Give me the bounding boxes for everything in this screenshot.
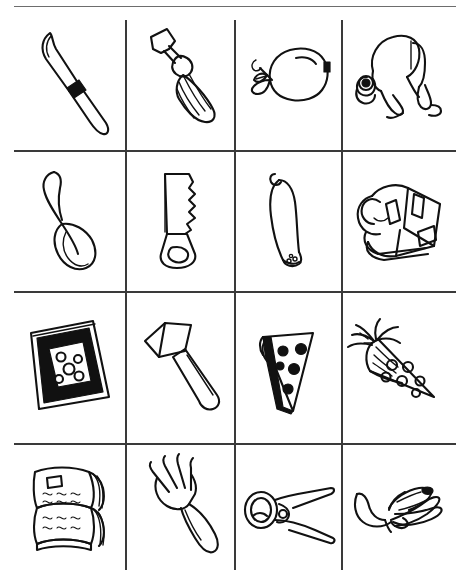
pizza-slice-icon	[239, 311, 339, 426]
grid-cell-r2c3[interactable]	[236, 152, 341, 291]
butter-knife-icon	[20, 19, 120, 139]
grid-cell-r3c4[interactable]	[343, 293, 456, 443]
grid-cell-r1c1[interactable]	[14, 8, 125, 150]
fork-icon	[131, 448, 231, 568]
handsaw-icon	[131, 162, 231, 282]
worksheet-page	[0, 0, 470, 585]
backpack-icon	[342, 162, 457, 282]
grid-cell-r4c3[interactable]	[236, 445, 341, 570]
pear-icon	[234, 24, 344, 134]
grid-cell-r1c2[interactable]	[127, 8, 234, 150]
grid-cell-r2c2[interactable]	[127, 152, 234, 291]
picture-frame-icon	[17, 311, 122, 426]
sausage-icon	[239, 162, 339, 282]
spoon-icon	[20, 162, 120, 282]
grid-cell-r4c4[interactable]	[343, 445, 456, 570]
grid-cell-r4c1[interactable]	[14, 445, 125, 570]
peeled-banana-icon	[345, 458, 455, 558]
screwdriver-icon	[131, 19, 231, 139]
hammer-icon	[131, 311, 231, 426]
grid-cell-r2c1[interactable]	[14, 152, 125, 291]
grid-cell-r1c3[interactable]	[236, 8, 341, 150]
open-book-icon	[17, 450, 122, 565]
grid-cell-r1c4[interactable]	[343, 8, 456, 150]
grid-cell-r2c4[interactable]	[343, 152, 456, 291]
carrot-icon	[342, 313, 457, 423]
grid-cell-r3c2[interactable]	[127, 293, 234, 443]
grid-cell-r3c3[interactable]	[236, 293, 341, 443]
pliers-icon	[239, 458, 339, 558]
grid-rule-horizontal-top	[14, 6, 456, 7]
frog-icon	[345, 19, 455, 139]
grid-cell-r4c2[interactable]	[127, 445, 234, 570]
grid-cell-r3c1[interactable]	[14, 293, 125, 443]
